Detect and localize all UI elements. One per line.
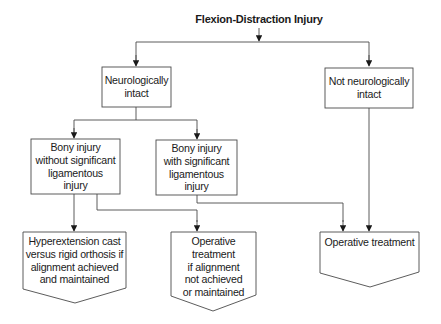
label-operative: Operative treatment [320, 236, 419, 249]
label-line: Hyperextension cast [28, 235, 120, 248]
label-line: Neurologically [105, 74, 169, 87]
label-bony-with: Bony injury with significant ligamentous… [156, 142, 237, 193]
label-line: treatment [192, 248, 235, 261]
label-line: Bony injury [171, 142, 221, 155]
label-line: ligamentous [169, 168, 224, 181]
label-line: injury [63, 179, 87, 192]
label-line: if alignment [188, 261, 240, 274]
diagram-title: Flexion-Distraction Injury [180, 13, 338, 26]
connector-bony-without-to-operative-if [97, 194, 197, 222]
label-not-neuro-intact: Not neurologically intact [325, 75, 413, 101]
label-line: with significant [164, 155, 230, 168]
label-line: Operative treatment [325, 236, 415, 249]
label-line: ligamentous [48, 167, 103, 180]
label-line: versus rigid orthosis if [26, 248, 124, 261]
label-operative-if: Operative treatment if alignment not ach… [171, 235, 256, 299]
connector-neuro-bus-right [136, 120, 197, 138]
label-neuro-intact: Neurologically intact [102, 74, 171, 100]
label-bony-without: Bony injury without significant ligament… [31, 141, 120, 192]
label-line: not achieved [185, 273, 243, 286]
label-line: or maintained [183, 286, 245, 299]
title-text: Flexion-Distraction Injury [195, 13, 322, 26]
label-hyperextension: Hyperextension cast versus rigid orthosi… [23, 235, 126, 286]
label-line: without significant [36, 154, 116, 167]
connector-neuro-bus [74, 107, 136, 137]
connector-title-bus [136, 42, 369, 65]
label-line: intact [357, 88, 381, 101]
label-line: Not neurologically [329, 75, 410, 88]
label-line: injury [184, 180, 208, 193]
label-line: and maintained [40, 273, 110, 286]
connector-bony-with-to-operative [197, 195, 343, 222]
label-line: Operative [191, 235, 235, 248]
label-line: Bony injury [50, 141, 100, 154]
label-line: intact [124, 87, 148, 100]
label-line: alignment achieved [31, 261, 119, 274]
